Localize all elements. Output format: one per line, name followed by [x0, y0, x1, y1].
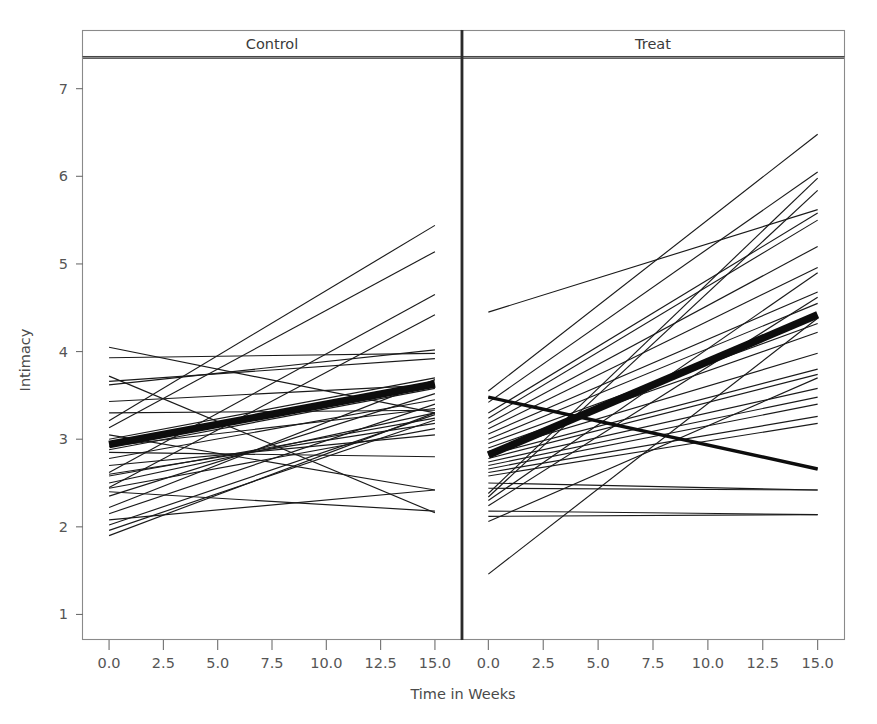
panel-strip-label-control: Control	[246, 36, 298, 52]
subject-trajectory-line	[109, 413, 435, 483]
x-tick-label: 15.0	[802, 655, 834, 671]
x-tick-label: 15.0	[419, 655, 451, 671]
subject-trajectory-line	[488, 190, 817, 497]
x-tick-label: 2.5	[532, 655, 555, 671]
subject-trajectory-line	[109, 404, 435, 514]
trellis-line-chart: Intimacy Time in Weeks Control Treat 123…	[0, 0, 877, 724]
y-axis-title: Intimacy	[17, 328, 33, 391]
x-tick-label: 0.0	[477, 655, 500, 671]
x-axis-treat: 0.02.55.07.510.012.515.0	[477, 640, 834, 671]
panel-frame-control	[83, 58, 462, 640]
figure-container: Intimacy Time in Weeks Control Treat 123…	[0, 0, 877, 724]
x-tick-label: 0.0	[98, 655, 121, 671]
x-tick-label: 10.0	[310, 655, 342, 671]
subject-trajectory-line	[488, 378, 817, 522]
y-tick-label: 1	[59, 606, 68, 622]
x-tick-label: 2.5	[152, 655, 175, 671]
subject-trajectory-line	[488, 515, 817, 517]
x-tick-label: 12.5	[747, 655, 779, 671]
x-tick-label: 10.0	[692, 655, 724, 671]
panel-strip-label-treat: Treat	[634, 36, 671, 52]
subject-trajectory-line	[109, 388, 435, 449]
x-tick-label: 12.5	[364, 655, 396, 671]
y-tick-label: 7	[59, 81, 68, 97]
panel-strip-treat: Treat	[462, 31, 845, 57]
y-axis: 1234567	[59, 81, 83, 623]
x-tick-label: 7.5	[260, 655, 283, 671]
y-tick-label: 5	[59, 256, 68, 272]
subject-trajectory-line	[488, 134, 817, 391]
x-axis-title: Time in Weeks	[409, 686, 515, 702]
y-tick-label: 2	[59, 519, 68, 535]
subject-trajectory-line	[109, 423, 435, 474]
y-tick-label: 4	[59, 344, 68, 360]
series-group-treat	[488, 134, 817, 574]
subject-trajectory-line	[109, 452, 435, 456]
x-tick-label: 7.5	[641, 655, 664, 671]
subject-trajectory-line	[488, 303, 817, 439]
subject-trajectory-line	[488, 297, 817, 506]
subject-trajectory-line	[109, 295, 435, 473]
subject-trajectory-line	[488, 267, 817, 428]
panel-strip-control: Control	[83, 31, 462, 57]
x-axis-control: 0.02.55.07.510.012.515.0	[98, 640, 452, 671]
series-group-control	[109, 225, 435, 535]
x-tick-label: 5.0	[206, 655, 229, 671]
subject-trajectory-line	[109, 359, 435, 382]
subject-trajectory-line	[488, 511, 817, 515]
y-tick-label: 3	[59, 431, 68, 447]
x-tick-label: 5.0	[587, 655, 610, 671]
y-tick-label: 6	[59, 168, 68, 184]
